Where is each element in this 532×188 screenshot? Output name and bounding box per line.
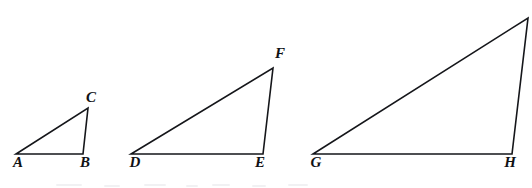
scan-artifact xyxy=(144,184,166,186)
scan-artifact xyxy=(288,184,308,186)
vertex-label-h: H xyxy=(504,155,516,170)
scan-artifact xyxy=(212,184,230,186)
scan-artifact xyxy=(104,185,120,187)
vertex-label-f: F xyxy=(275,46,285,61)
scan-artifact xyxy=(56,184,82,186)
vertex-label-d: D xyxy=(130,155,141,170)
scan-artifact xyxy=(252,185,266,187)
triangle-ghi-outline xyxy=(313,18,528,154)
vertex-label-b: B xyxy=(80,155,90,170)
triangle-abc-outline xyxy=(16,108,88,154)
similar-triangles-figure: A B C D E F G H xyxy=(0,0,532,188)
scan-artifact xyxy=(186,185,198,187)
vertex-label-e: E xyxy=(255,155,265,170)
vertex-label-a: A xyxy=(13,155,23,170)
vertex-label-g: G xyxy=(311,155,322,170)
triangle-def-outline xyxy=(131,68,273,154)
vertex-label-c: C xyxy=(86,90,96,105)
